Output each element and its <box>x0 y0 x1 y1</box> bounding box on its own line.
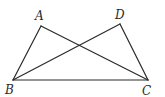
segment-ab <box>13 26 41 80</box>
point-label-c: C <box>142 84 151 97</box>
segment-dc <box>120 24 148 80</box>
labels-group: A D B C <box>4 8 151 97</box>
segments-group <box>13 24 148 80</box>
segment-db <box>13 24 120 80</box>
point-label-d: D <box>114 8 125 22</box>
geometry-diagram: A D B C <box>0 0 165 97</box>
point-label-b: B <box>4 83 14 97</box>
point-label-a: A <box>34 9 44 23</box>
segment-ac <box>41 26 148 80</box>
